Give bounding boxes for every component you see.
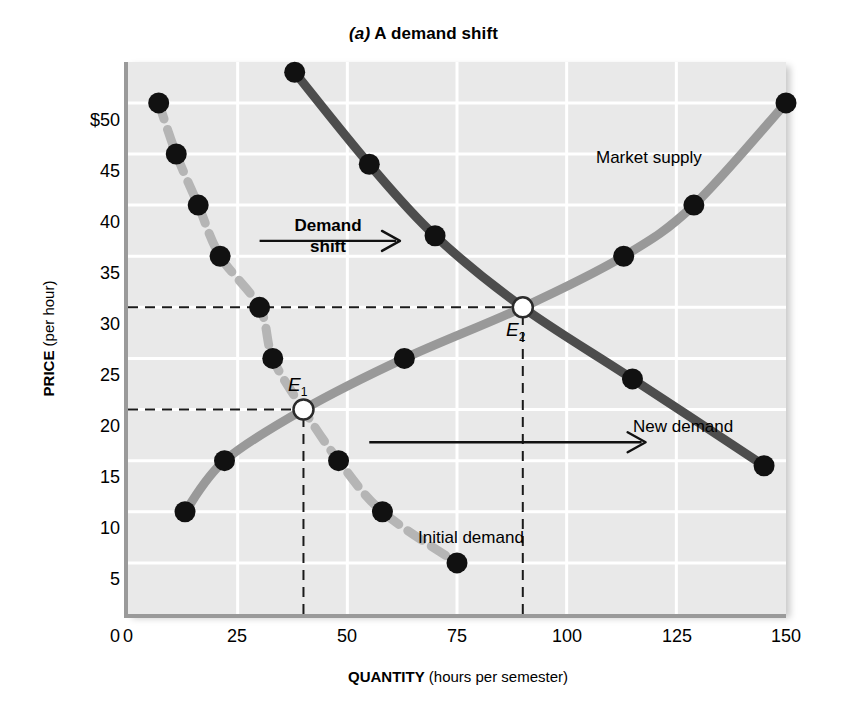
data-point: [425, 225, 446, 246]
x-tick-150: 150: [756, 626, 816, 647]
data-point: [175, 501, 196, 522]
x-axis-title-bold: QUANTITY: [348, 668, 425, 685]
data-point: [166, 144, 187, 165]
demand-shift-line1: Demand: [294, 216, 361, 235]
x-tick-0: 0: [98, 626, 158, 647]
label-market-supply: Market supply: [596, 148, 702, 168]
data-point: [188, 195, 209, 216]
data-point: [447, 552, 468, 573]
y-tick-5: 5: [50, 570, 120, 588]
data-points: [148, 62, 796, 574]
equilibrium-label-e2: E2: [506, 319, 525, 344]
curve-initial-demand: [159, 103, 457, 563]
figure-panel-a: (a) A demand shift PRICE (per hour) $50 …: [0, 0, 847, 715]
y-tick-35: 35: [50, 264, 120, 282]
y-tick-15: 15: [50, 468, 120, 486]
y-tick-30: 30: [50, 315, 120, 333]
data-point: [328, 450, 349, 471]
label-demand-shift: Demand shift: [268, 215, 388, 257]
x-axis-line: [124, 614, 786, 618]
y-tick-25: 25: [50, 366, 120, 384]
e2-subscript: 2: [519, 330, 526, 344]
curves: [159, 72, 786, 563]
e1-letter: E: [288, 374, 301, 395]
data-point: [776, 92, 797, 113]
y-tick-labels: $50 45 40 35 30 25 20 15 10 5 0: [48, 0, 120, 715]
data-point: [613, 246, 634, 267]
data-point: [249, 297, 270, 318]
y-tick-10: 10: [50, 519, 120, 537]
x-tick-50: 50: [317, 626, 377, 647]
data-point: [284, 62, 305, 83]
label-initial-demand: Initial demand: [418, 528, 524, 548]
panel-letter: (a): [349, 24, 370, 43]
y-tick-50: $50: [50, 111, 120, 129]
data-point: [622, 368, 643, 389]
data-point: [394, 348, 415, 369]
x-tick-125: 125: [647, 626, 707, 647]
x-tick-100: 100: [537, 626, 597, 647]
data-point: [214, 450, 235, 471]
x-tick-75: 75: [427, 626, 487, 647]
equilibrium-point-e1: [293, 400, 313, 420]
label-new-demand: New demand: [633, 417, 733, 437]
data-point: [372, 501, 393, 522]
equilibrium-label-e1: E1: [288, 374, 307, 399]
data-point: [754, 455, 775, 476]
x-axis-title-rest: (hours per semester): [425, 668, 568, 685]
y-tick-40: 40: [50, 213, 120, 231]
data-point: [148, 92, 169, 113]
y-tick-45: 45: [50, 162, 120, 180]
equilibrium-point-e2: [513, 297, 533, 317]
figure-title: (a) A demand shift: [0, 24, 847, 44]
e1-subscript: 1: [301, 385, 308, 399]
x-tick-25: 25: [207, 626, 267, 647]
plot-area: Market supply New demand Initial demand …: [128, 62, 786, 614]
y-tick-20: 20: [50, 417, 120, 435]
e2-letter: E: [506, 319, 519, 340]
data-point: [359, 154, 380, 175]
figure-title-text: A demand shift: [370, 24, 498, 43]
demand-shift-line2: shift: [310, 237, 346, 256]
data-point: [262, 348, 283, 369]
data-point: [683, 195, 704, 216]
x-axis-title: QUANTITY (hours per semester): [128, 668, 788, 685]
data-point: [210, 246, 231, 267]
curve-new-demand: [295, 72, 764, 466]
